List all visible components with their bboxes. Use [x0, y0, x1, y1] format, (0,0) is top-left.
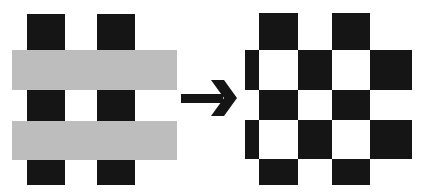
- right-arrow-icon: [181, 80, 237, 116]
- checker-cell: [245, 50, 259, 90]
- checker-cell: [332, 159, 370, 185]
- checker-cell: [259, 13, 298, 50]
- checker-cell: [259, 159, 298, 185]
- checker-cell: [332, 90, 370, 120]
- horizontal-bar: [12, 50, 177, 90]
- horizontal-bar: [12, 121, 177, 160]
- checker-cell: [332, 13, 370, 50]
- checker-cell: [298, 120, 332, 159]
- checker-cell: [259, 90, 298, 120]
- checker-cell: [298, 50, 332, 90]
- checker-cell: [370, 50, 412, 90]
- checker-cell: [370, 120, 412, 159]
- checker-cell: [245, 120, 259, 159]
